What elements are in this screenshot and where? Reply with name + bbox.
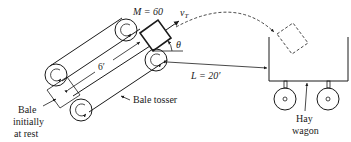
bale-launch <box>140 20 171 51</box>
upper-belt-top-edge <box>50 18 122 66</box>
rotation-arrow-icon <box>151 54 161 66</box>
angle-label: θ <box>176 39 181 50</box>
rotation-arrow-icon <box>121 24 131 36</box>
velocity-arrow <box>166 21 179 30</box>
roller-lower-left <box>70 99 92 121</box>
roller-upper-right <box>115 19 137 41</box>
hay-wagon <box>269 23 348 110</box>
upper-belt-bottom-edge <box>62 29 140 81</box>
rotation-arrow-icon <box>51 69 61 81</box>
bale-landing <box>277 23 308 54</box>
hay-wagon-label-line2: wagon <box>292 125 319 136</box>
bale-initial <box>47 77 80 108</box>
mass-label: M = 60 <box>132 6 163 17</box>
bale-initial-label-line1: Bale <box>18 104 37 115</box>
hay-wagon-label-line1: Hay <box>296 113 313 124</box>
bale-initial-label-line3: at rest <box>14 128 38 139</box>
lower-belt-top-edge <box>73 46 150 96</box>
wagon-wheel-right <box>317 88 339 110</box>
wagon-wheel-left <box>274 88 296 110</box>
upper-belt <box>45 18 140 86</box>
horizontal-distance-label: L = 20′ <box>190 70 221 81</box>
bale-tosser-label: Bale tosser <box>133 94 178 105</box>
hay-wagon-leader <box>305 83 307 111</box>
bale-initial-label-line2: initially <box>13 116 44 127</box>
lower-belt <box>70 46 167 121</box>
bale-tosser-diagram: 6′ vT θ M = 60 L = 20′ <box>0 0 351 142</box>
bale-tosser-leader <box>121 96 130 100</box>
belt-length-dimension: 6′ <box>68 42 140 90</box>
horizontal-distance-dimension: L = 20′ <box>167 62 267 81</box>
wagon-bed <box>269 37 348 81</box>
angle-arc <box>168 41 172 51</box>
bale-initial-leader <box>43 99 56 106</box>
rotation-arrow-icon <box>76 104 86 116</box>
trajectory-arc <box>176 12 274 32</box>
velocity-label: vT <box>180 7 189 20</box>
roller-upper-left <box>45 64 67 86</box>
belt-length-label: 6′ <box>98 62 105 72</box>
